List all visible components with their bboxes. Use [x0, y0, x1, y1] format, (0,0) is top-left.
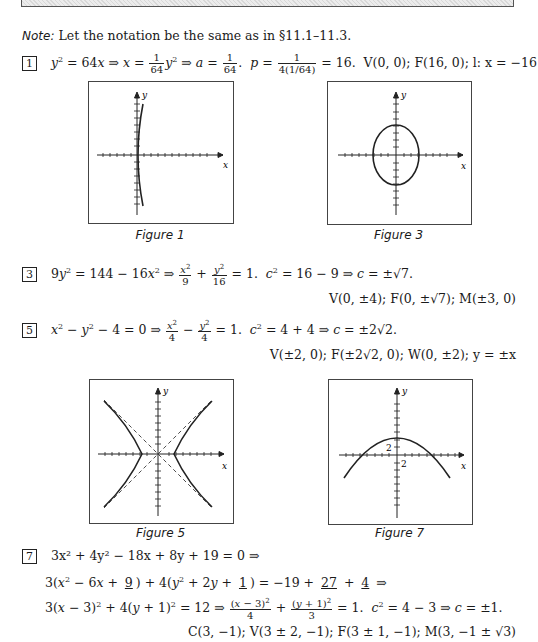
problem-5: 5 x2 − y2 − 4 = 0 ⇒ x24 − y24 = 1. c2 = … [22, 318, 397, 343]
problem-number: 1 [22, 56, 37, 71]
figure-7: 2 2 x y [328, 379, 473, 525]
problem-5-results: V(±2, 0); F(±2√2, 0); W(0, ±2); y = ±x [270, 347, 516, 363]
header-bar [21, 0, 514, 7]
problem-1: 1 y2 = 64x ⇒ x = 164y2 ⇒ a = 164. p = 14… [22, 52, 537, 75]
svg-text:y: y [401, 386, 408, 396]
problem-number: 5 [22, 323, 37, 338]
figure-1: x y [88, 81, 234, 224]
problem-7-line-3: 3(x − 3)2 + 4(y + 1)2 = 12 ⇒ (x − 3)24 +… [45, 596, 503, 621]
svg-text:x: x [223, 160, 228, 170]
problem-7-results: C(3, −1); V(3 ± 2, −1); F(3 ± 1, −1); M(… [188, 624, 516, 640]
svg-text:x: x [461, 461, 466, 471]
problem-7-line-1: 3x² + 4y² − 18x + 8y + 19 = 0 ⇒ [51, 548, 259, 563]
note-label: Note: [22, 29, 54, 43]
figure-7-caption: Figure 7 [328, 526, 471, 540]
figure-7-plot: 2 2 x y [329, 380, 472, 524]
problem-number: 7 [22, 549, 37, 564]
figure-3-plot: x y [328, 82, 471, 224]
problem-3: 3 9y2 = 144 − 16x2 ⇒ x29 + y216 = 1. c2 … [22, 262, 413, 287]
y-tick-label: 2 [386, 443, 392, 453]
figure-1-caption: Figure 1 [88, 228, 232, 242]
figure-3: x y [327, 81, 472, 225]
problem-7: 7 3x² + 4y² − 18x + 8y + 19 = 0 ⇒ [22, 548, 259, 564]
figure-5-caption: Figure 5 [89, 526, 232, 540]
x-tick-label: 2 [401, 459, 407, 469]
figure-5-plot: x y [90, 380, 233, 523]
problem-number: 3 [22, 267, 37, 282]
note-text: Let the notation be the same as in §11.1… [58, 28, 351, 43]
svg-text:y: y [400, 90, 407, 100]
figure-3-caption: Figure 3 [327, 228, 470, 242]
problem-7-line-2: 3(x2 − 6x + 9) + 4(y2 + 2y + 1) = −19 + … [45, 572, 387, 591]
svg-text:y: y [162, 386, 169, 396]
problem-3-results: V(0, ±4); F(0, ±√7); M(±3, 0) [329, 291, 516, 307]
note: Note: Let the notation be the same as in… [22, 28, 351, 44]
svg-text:x: x [461, 161, 466, 171]
figure-1-plot: x y [89, 82, 233, 223]
svg-text:x: x [222, 461, 227, 471]
problem-1-results: V(0, 0); F(16, 0); l: x = −16 [364, 55, 537, 70]
svg-text:y: y [141, 90, 148, 100]
figure-5: x y [89, 379, 234, 524]
